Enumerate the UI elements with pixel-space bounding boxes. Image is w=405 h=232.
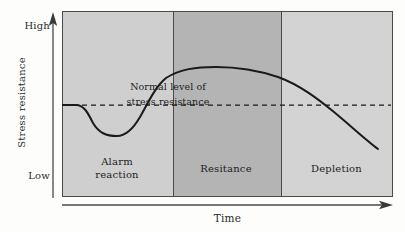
normal-level-annotation: Normal level of stress resistance [108, 79, 228, 109]
phase-label-alarm-line-2: reaction [72, 168, 162, 181]
stress-resistance-chart: High Low Stress resistance Normal level … [0, 0, 405, 232]
y-axis-title: Stress resistance [16, 43, 27, 163]
normal-level-line-2: stress resistance [108, 94, 228, 109]
arrow-right-icon [62, 199, 393, 211]
y-axis-low-label: Low [6, 170, 50, 181]
normal-level-line-1: Normal level of [108, 79, 228, 94]
x-axis-title: Time [62, 212, 393, 224]
phase-label-resistance-line-1: Resitance [172, 162, 280, 175]
phase-label-alarm-line-1: Alarm [72, 155, 162, 168]
y-axis-high-label: High [6, 20, 50, 31]
arrow-up-icon [47, 12, 59, 198]
phase-label-alarm: Alarm reaction [72, 155, 162, 181]
phase-label-depletion: Depletion [280, 162, 393, 175]
phase-label-resistance: Resitance [172, 162, 280, 175]
phase-label-depletion-line-1: Depletion [280, 162, 393, 175]
